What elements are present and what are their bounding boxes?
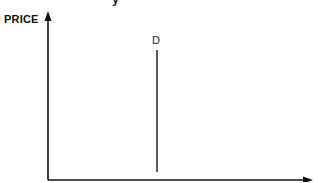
x-axis-arrow-icon — [303, 177, 313, 183]
diagram-plot — [0, 0, 318, 182]
y-axis-arrow-icon — [45, 11, 52, 21]
